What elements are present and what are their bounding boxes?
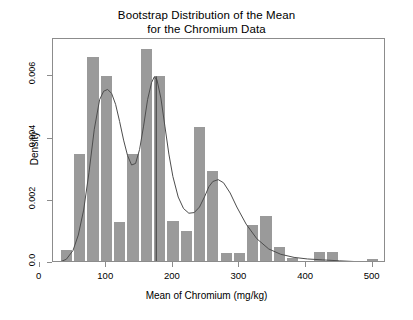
chart-title-line-1: Bootstrap Distribution of the Mean [0, 8, 413, 22]
x-tick-label: 200 [147, 270, 197, 281]
x-tick-mark [305, 262, 306, 267]
x-tick-label: 400 [280, 270, 330, 281]
x-tick-label: 100 [80, 270, 130, 281]
chart-title: Bootstrap Distribution of the Mean for t… [0, 8, 413, 36]
x-tick-mark [172, 262, 173, 267]
y-tick-mark [47, 200, 52, 201]
y-tick-label: 0.006 [27, 53, 37, 93]
x-tick-mark [105, 262, 106, 267]
plot-inner [53, 39, 384, 261]
x-tick-mark [372, 262, 373, 267]
y-tick-mark [47, 75, 52, 76]
y-tick-mark [47, 138, 52, 139]
x-tick-label: 0 [14, 270, 64, 281]
x-tick-label: 300 [213, 270, 263, 281]
y-axis-label: Density [29, 99, 40, 199]
x-tick-mark [39, 262, 40, 267]
x-tick-mark [238, 262, 239, 267]
y-tick-mark [47, 262, 52, 263]
bootstrap-density-chart: Bootstrap Distribution of the Mean for t… [0, 0, 413, 320]
x-axis-label: Mean of Chromium (mg/kg) [0, 290, 413, 301]
y-tick-label: 0.0 [27, 240, 37, 280]
chart-title-line-2: for the Chromium Data [0, 22, 413, 36]
plot-area [52, 38, 385, 262]
x-tick-label: 500 [347, 270, 397, 281]
density-curve [53, 39, 384, 261]
